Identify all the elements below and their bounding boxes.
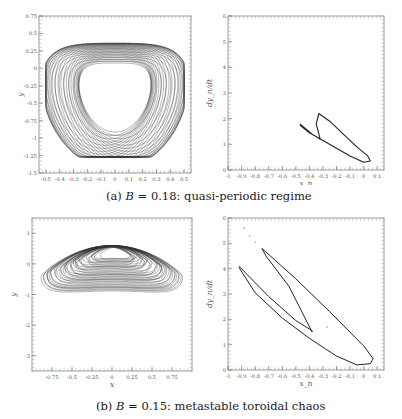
x-tick-label: -0.9: [237, 173, 247, 179]
trajectory-loop: [79, 61, 156, 135]
x-tick-label: -0.2: [332, 373, 342, 379]
x-tick-label: -0.7: [264, 173, 274, 179]
x-tick-label: -0.5: [67, 374, 77, 380]
trajectory-loop: [55, 54, 153, 148]
x-axis-label: x: [110, 380, 115, 389]
y-axis-label: y: [16, 92, 25, 98]
chart-b-phase-portrait: -0.75-0.5-0.2500.250.50.7510-1-2-3xy: [0, 205, 200, 395]
y-axis-label: dy_n/dt: [205, 279, 214, 308]
trajectory-loop: [55, 44, 184, 157]
y-axis-label: dy_n/dt: [205, 78, 214, 107]
caption-a-eq: = 0.18:: [134, 189, 184, 203]
y-tick-label: 0: [27, 261, 30, 267]
x-tick-label: 0.4: [166, 176, 175, 182]
y-tick-label: 4: [223, 266, 227, 272]
y-tick-label: 2: [223, 116, 226, 122]
y-tick-label: 0: [223, 167, 226, 173]
chart-a-return-map: -1-0.9-0.8-0.7-0.6-0.5-0.4-0.3-0.2-0.100…: [200, 0, 402, 185]
plot-frame: [228, 16, 384, 170]
x-tick-label: -1: [225, 373, 230, 379]
trajectory-loop: [78, 58, 166, 143]
caption-a: (a) B = 0.18: quasi-periodic regime: [106, 189, 312, 203]
x-axis-label: x_n: [300, 179, 313, 185]
map-curve: [300, 114, 371, 163]
y-tick-label: 0.75: [25, 13, 37, 19]
x-tick-label: 0.75: [166, 374, 178, 380]
y-axis-label: y: [9, 292, 18, 298]
map-curve: [239, 248, 373, 365]
x-tick-label: 0.1: [373, 173, 381, 179]
y-tick-label: 1: [223, 141, 226, 147]
caption-a-text: quasi-periodic regime: [184, 189, 312, 203]
y-tick-label: 6: [223, 215, 226, 221]
x-tick-label: 0.1: [373, 373, 381, 379]
y-tick-label: -0.25: [24, 83, 37, 89]
x-tick-label: 0: [362, 173, 365, 179]
trajectory-loop: [79, 63, 151, 132]
trajectory-loop: [77, 54, 175, 148]
caption-b-label: (b): [96, 399, 112, 413]
x-tick-label: -0.3: [318, 373, 328, 379]
x-tick-label: 0.5: [148, 374, 156, 380]
y-tick-label: -2: [25, 322, 30, 328]
y-tick-label: -3: [25, 353, 30, 359]
x-tick-label: -0.5: [41, 176, 51, 182]
y-tick-label: 3: [223, 291, 226, 297]
x-axis-label: x: [113, 182, 118, 185]
y-tick-label: 0.25: [25, 48, 37, 54]
y-tick-label: 1: [223, 342, 226, 348]
y-tick-label: 0: [223, 367, 226, 373]
plot-frame: [228, 218, 384, 370]
x-tick-label: 0.3: [152, 176, 160, 182]
y-tick-label: -1: [25, 292, 30, 298]
x-tick-label: -0.8: [250, 173, 260, 179]
x-axis-label: x_n: [300, 379, 313, 388]
x-tick-label: -1: [225, 173, 230, 179]
scatter-point: [249, 235, 250, 236]
x-tick-label: -0.1: [96, 176, 106, 182]
x-tick-label: -0.7: [264, 373, 274, 379]
x-tick-label: -0.2: [82, 176, 92, 182]
y-tick-label: -0.5: [27, 100, 37, 106]
x-tick-label: 0.2: [139, 176, 147, 182]
y-tick-label: 0: [34, 65, 37, 71]
y-tick-label: -1: [32, 135, 37, 141]
y-tick-label: -0.75: [24, 118, 37, 124]
y-tick-label: 5: [223, 39, 226, 45]
caption-a-var: B: [126, 189, 134, 203]
y-tick-label: -1.25: [24, 153, 37, 159]
trajectory-loop: [64, 58, 152, 143]
x-tick-label: -0.8: [250, 373, 260, 379]
y-tick-label: -1.5: [27, 170, 37, 176]
x-tick-label: 0.1: [125, 176, 133, 182]
caption-b-text: metastable toroidal chaos: [175, 399, 326, 413]
chart-b-return-map: -1-0.9-0.8-0.7-0.6-0.5-0.4-0.3-0.2-0.100…: [200, 205, 402, 395]
y-tick-label: 2: [223, 316, 226, 322]
scatter-point: [244, 228, 245, 229]
x-tick-label: -0.1: [345, 173, 355, 179]
x-tick-label: -0.25: [85, 374, 98, 380]
trajectory-loop: [46, 44, 175, 157]
scatter-point: [326, 326, 327, 327]
y-tick-label: 5: [223, 240, 226, 246]
x-tick-label: -0.6: [277, 373, 287, 379]
x-tick-label: -0.3: [318, 173, 328, 179]
y-tick-label: 1: [27, 230, 30, 236]
y-tick-label: 0.5: [29, 30, 37, 36]
x-tick-label: -0.3: [69, 176, 79, 182]
trajectory-loop: [56, 246, 162, 281]
x-tick-label: -0.75: [45, 374, 58, 380]
chart-a-phase-portrait: -0.5-0.4-0.3-0.2-0.100.10.20.30.40.50.75…: [0, 0, 200, 185]
trajectory-loop: [74, 61, 151, 135]
x-tick-label: 0.25: [126, 374, 138, 380]
y-tick-label: 6: [223, 13, 226, 19]
x-tick-label: 0: [362, 373, 365, 379]
x-tick-label: -0.6: [277, 173, 287, 179]
y-tick-label: 3: [223, 90, 226, 96]
plot-frame: [32, 218, 192, 371]
x-tick-label: 0.5: [180, 176, 188, 182]
caption-b-eq: = 0.15:: [124, 399, 174, 413]
x-tick-label: -0.2: [332, 173, 342, 179]
x-tick-label: -0.9: [237, 373, 247, 379]
caption-b: (b) B = 0.15: metastable toroidal chaos: [96, 399, 325, 413]
